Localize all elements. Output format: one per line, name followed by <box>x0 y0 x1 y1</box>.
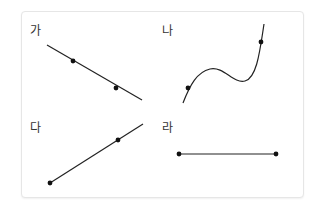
point-dot <box>177 152 182 157</box>
point-dot <box>71 59 76 64</box>
point-dot <box>116 138 121 143</box>
panel-ra: 라 <box>162 121 278 156</box>
panel-da: 다 <box>30 121 143 185</box>
increasing-line <box>50 124 143 183</box>
panel-ga: 가 <box>30 24 142 100</box>
decreasing-line <box>47 45 142 100</box>
panel-label: 가 <box>30 24 41 38</box>
panel-label: 다 <box>30 121 41 135</box>
point-dot <box>114 86 119 91</box>
point-dot <box>48 181 53 186</box>
curve-points <box>186 40 264 91</box>
point-dot <box>186 86 191 91</box>
graph-panels: 가 나 다 라 <box>0 0 316 202</box>
panel-label: 라 <box>162 121 173 135</box>
point-dot <box>259 40 264 45</box>
cubic-curve <box>183 24 264 103</box>
point-dot <box>274 152 279 157</box>
panel-na: 나 <box>162 24 264 103</box>
panel-label: 나 <box>162 24 173 38</box>
